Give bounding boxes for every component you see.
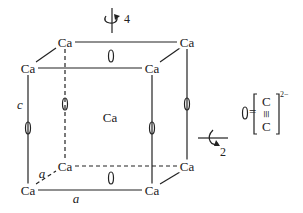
atom-front-bottom-right: Ca xyxy=(144,184,160,197)
legend-carbon-top: C xyxy=(262,96,271,108)
unit-cell-lines xyxy=(0,0,303,213)
atom-back-bottom-right: Ca xyxy=(179,160,195,173)
atom-front-top-left: Ca xyxy=(20,62,36,75)
fourfold-axis-label: 4 xyxy=(124,13,130,25)
atom-back-bottom-left: Ca xyxy=(57,160,73,173)
legend-carbon-bottom: C xyxy=(262,121,271,133)
axis-label-c: c xyxy=(16,98,24,111)
legend-charge: 2− xyxy=(280,89,289,101)
atom-back-top-right: Ca xyxy=(179,36,195,49)
axis-label-a-width: a xyxy=(72,192,81,205)
atom-center: Ca xyxy=(102,111,118,124)
legend-triple-bond: ≡ xyxy=(260,110,272,117)
atom-back-top-left: Ca xyxy=(57,36,73,49)
axis-label-a-depth: a xyxy=(38,167,47,180)
twofold-axis-label: 2 xyxy=(220,146,226,158)
atom-front-bottom-left: Ca xyxy=(20,184,36,197)
atom-front-top-right: Ca xyxy=(144,62,160,75)
legend-equals: = xyxy=(249,106,256,118)
